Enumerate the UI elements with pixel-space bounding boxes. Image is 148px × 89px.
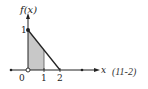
equation-number: (11-2) [112, 66, 136, 77]
density-diagram: f(x) 1 0 1 2 x (11-2) [0, 0, 148, 89]
shaded-area [28, 30, 44, 70]
point-origin-open [26, 68, 30, 72]
x-axis-label: x [101, 65, 106, 75]
x-tick-label-2: 2 [57, 73, 63, 83]
x-axis-right-dot [81, 69, 84, 72]
y-axis-label: f(x) [19, 4, 37, 15]
x-tick-label-0: 0 [19, 73, 25, 83]
x-tick-label-1: 1 [41, 73, 47, 83]
x-axis-left-end-dot [10, 69, 13, 72]
x-axis-arrow-icon [94, 68, 100, 72]
y-tick-label-1: 1 [21, 25, 27, 35]
